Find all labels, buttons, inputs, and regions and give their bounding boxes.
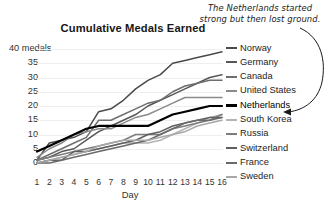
- legend-label: Switzerland: [240, 144, 288, 153]
- legend-label: France: [240, 158, 269, 167]
- legend-item-switzerland[interactable]: Switzerland: [226, 141, 334, 155]
- legend-swatch: [226, 119, 237, 121]
- legend-label: Norway: [240, 44, 272, 53]
- legend-item-france[interactable]: France: [226, 155, 334, 169]
- legend-label: Canada: [240, 72, 273, 81]
- legend-label: Netherlands: [240, 101, 290, 110]
- legend-swatch: [226, 176, 237, 178]
- legend-item-russia[interactable]: Russia: [226, 127, 334, 141]
- legend-swatch: [226, 76, 237, 78]
- legend-swatch: [226, 133, 237, 135]
- legend-swatch: [226, 61, 237, 63]
- chart-root: The Netherlands started strong but then …: [0, 0, 334, 215]
- legend-item-united-states[interactable]: United States: [226, 84, 334, 98]
- legend-swatch: [226, 104, 237, 107]
- legend-item-canada[interactable]: Canada: [226, 70, 334, 84]
- legend: NorwayGermanyCanadaUnited StatesNetherla…: [226, 41, 334, 184]
- legend-item-sweden[interactable]: Sweden: [226, 170, 334, 184]
- legend-swatch: [226, 162, 237, 164]
- legend-item-norway[interactable]: Norway: [226, 41, 334, 55]
- legend-swatch: [226, 90, 237, 92]
- legend-label: South Korea: [240, 115, 292, 124]
- legend-item-germany[interactable]: Germany: [226, 55, 334, 69]
- legend-swatch: [226, 47, 237, 49]
- legend-item-south-korea[interactable]: South Korea: [226, 112, 334, 126]
- legend-label: Russia: [240, 129, 268, 138]
- legend-swatch: [226, 147, 237, 149]
- x-axis-title: Day: [37, 189, 223, 200]
- legend-item-netherlands[interactable]: Netherlands: [226, 98, 334, 112]
- legend-label: Sweden: [240, 172, 274, 181]
- legend-label: Germany: [240, 58, 278, 67]
- legend-label: United States: [240, 86, 296, 95]
